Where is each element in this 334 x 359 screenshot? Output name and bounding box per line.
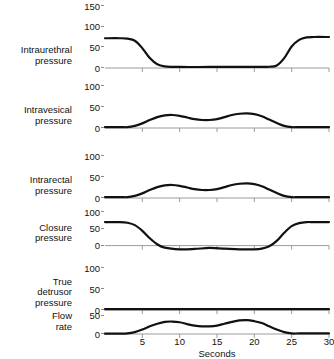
curve-flow-rate xyxy=(105,320,329,334)
panel-label-closure-pressure: Closure pressure xyxy=(0,223,72,244)
ytick-intravesical-pressure-100: 100 xyxy=(74,82,100,92)
x-axis-label-10: 10 xyxy=(174,336,185,347)
x-axis-label-20: 20 xyxy=(249,336,260,347)
ytick-closure-pressure-0: 0 xyxy=(74,241,100,251)
ytick-intraurethral-pressure-150: 150 xyxy=(74,2,100,12)
ytick-intraurethral-pressure-0: 0 xyxy=(74,64,100,74)
curve-intraurethral-pressure xyxy=(105,37,329,67)
ytick-flow-rate-50: 50 xyxy=(74,311,100,321)
plot-area-intravesical-pressure xyxy=(105,86,329,144)
panel-label-intrarectal-pressure: Intrarectal pressure xyxy=(0,175,72,196)
x-axis-label-5: 5 xyxy=(140,336,145,347)
ytick-intraurethral-pressure-50: 50 xyxy=(74,43,100,53)
ytick-intravesical-pressure-50: 50 xyxy=(74,103,100,113)
curve-intrarectal-pressure xyxy=(105,183,329,197)
ytick-closure-pressure-50: 50 xyxy=(74,224,100,234)
x-axis-label-25: 25 xyxy=(286,336,297,347)
x-axis-label-30: 30 xyxy=(324,336,334,347)
ytick-closure-pressure-100: 100 xyxy=(74,208,100,218)
ytick-intrarectal-pressure-0: 0 xyxy=(74,194,100,204)
x-axis-title: Seconds xyxy=(105,348,329,359)
x-axis-labels: 51015202530 xyxy=(105,336,329,348)
ytick-true-detrusor-pressure-50: 50 xyxy=(74,285,100,295)
ytick-intraurethral-pressure-100: 100 xyxy=(74,22,100,32)
panel-label-flow-rate: Flow rate xyxy=(0,311,72,332)
ytick-intrarectal-pressure-100: 100 xyxy=(74,152,100,162)
plot-area-intrarectal-pressure xyxy=(105,156,329,214)
panel-label-intraurethral-pressure: Intraurethral pressure xyxy=(0,45,72,66)
plot-area-intraurethral-pressure xyxy=(105,6,329,86)
ytick-intravesical-pressure-0: 0 xyxy=(74,124,100,134)
panel-label-true-detrusor-pressure: True detrusor pressure xyxy=(0,277,72,309)
ytick-flow-rate-0: 0 xyxy=(74,330,100,340)
x-axis-label-15: 15 xyxy=(212,336,223,347)
curve-intravesical-pressure xyxy=(105,113,329,127)
ytick-intrarectal-pressure-50: 50 xyxy=(74,173,100,183)
ytick-true-detrusor-pressure-100: 100 xyxy=(74,264,100,274)
panel-label-intravesical-pressure: Intravesical pressure xyxy=(0,105,72,126)
